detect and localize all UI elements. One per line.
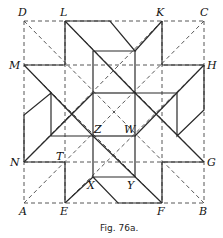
geometric-diagram: D L K C M H Z W T N G X Y A E F B Fig. 7… [0,0,223,238]
label-D: D [17,6,27,19]
label-Y: Y [127,179,136,192]
label-B: B [198,205,207,218]
label-F: F [156,205,165,218]
label-M: M [8,59,21,72]
label-N: N [9,156,20,169]
label-G: G [207,156,216,169]
label-T: T [56,150,65,163]
figure-caption: Fig. 76a. [100,223,138,233]
label-H: H [206,59,217,72]
label-K: K [155,6,165,19]
label-E: E [59,205,68,218]
label-W: W [124,123,137,136]
label-X: X [86,179,96,192]
label-A: A [18,205,27,218]
label-C: C [200,6,209,19]
label-Z: Z [93,123,102,136]
label-L: L [59,6,67,19]
